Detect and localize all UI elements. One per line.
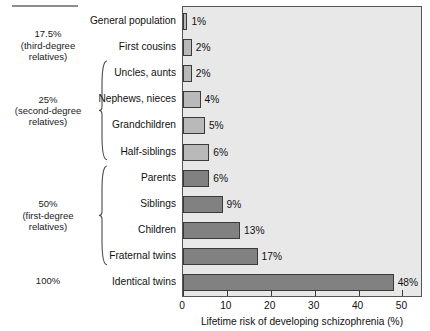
x-axis-title: Lifetime risk of developing schizophreni… (182, 316, 422, 327)
x-axis-tick-label: 30 (299, 300, 329, 311)
x-axis-tick-label: 50 (386, 300, 416, 311)
x-axis-tick (402, 290, 403, 296)
x-axis-tick-label: 10 (211, 300, 241, 311)
category-label: Siblings (6, 198, 176, 210)
category-label: Grandchildren (6, 119, 176, 131)
x-axis-tick (359, 290, 360, 296)
bar (183, 196, 223, 213)
bar-value-label: 6% (213, 147, 228, 159)
bar-value-label: 4% (205, 94, 220, 106)
top-rule (12, 5, 78, 7)
x-axis-tick-label: 40 (343, 300, 373, 311)
bar (183, 39, 192, 56)
x-axis-tick (227, 290, 228, 296)
group-label-line: (second-degree (2, 105, 94, 116)
bar-value-label: 9% (227, 199, 242, 211)
group-label-line: 17.5% (2, 28, 94, 39)
category-label: Fraternal twins (6, 250, 176, 262)
bar-value-label: 5% (209, 120, 224, 132)
bar (183, 170, 209, 187)
category-label: Nephews, nieces (6, 93, 176, 105)
category-label: General population (6, 15, 176, 27)
bar (183, 274, 394, 291)
bar-value-label: 17% (262, 251, 282, 263)
category-label: Half-siblings (6, 146, 176, 158)
bar-value-label: 13% (244, 225, 264, 237)
bar (183, 248, 258, 265)
bar-value-label: 2% (196, 42, 211, 54)
bar (183, 222, 240, 239)
bar-value-label: 2% (196, 68, 211, 80)
bar-value-label: 1% (191, 16, 206, 28)
x-axis-tick (271, 290, 272, 296)
bar (183, 65, 192, 82)
x-axis-tick (183, 290, 184, 296)
category-label: First cousins (6, 41, 176, 53)
group-label-line: (first-degree (2, 210, 94, 221)
x-axis-tick-label: 20 (255, 300, 285, 311)
bar (183, 91, 201, 108)
bar (183, 144, 209, 161)
bar (183, 117, 205, 134)
category-label: Uncles, aunts (6, 67, 176, 79)
x-axis-tick-label: 0 (167, 300, 197, 311)
chart-figure: 17.5%(third-degreerelatives)25%(second-d… (0, 0, 430, 331)
bar-value-label: 48% (398, 277, 418, 289)
plot-area: 1%2%2%4%5%6%6%9%13%17%48% (182, 6, 422, 297)
category-label: Children (6, 224, 176, 236)
x-axis-tick (315, 290, 316, 296)
bar (183, 13, 187, 30)
bar-value-label: 6% (213, 173, 228, 185)
category-label: Identical twins (6, 276, 176, 288)
category-label: Parents (6, 172, 176, 184)
